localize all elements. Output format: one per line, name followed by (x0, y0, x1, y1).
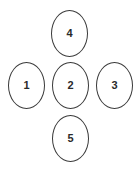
node-label: 4 (66, 28, 72, 39)
ellipse-node-left: 1 (8, 62, 45, 109)
ellipse-node-right: 3 (96, 62, 133, 109)
ellipse-node-center: 2 (52, 62, 89, 109)
ellipse-node-bottom: 5 (52, 115, 89, 162)
node-label: 2 (67, 80, 73, 91)
node-label: 5 (67, 133, 73, 144)
node-label: 3 (111, 80, 117, 91)
node-label: 1 (23, 80, 29, 91)
ellipse-node-top: 4 (51, 10, 88, 57)
